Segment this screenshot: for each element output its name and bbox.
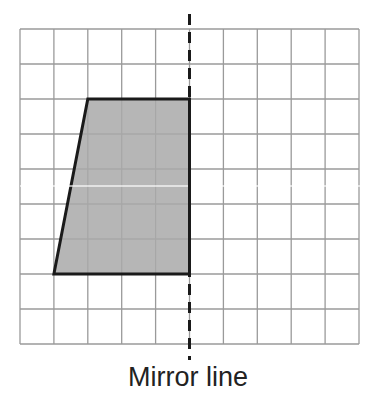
reflection-diagram	[0, 0, 376, 419]
mirror-line-label: Mirror line	[0, 362, 376, 393]
